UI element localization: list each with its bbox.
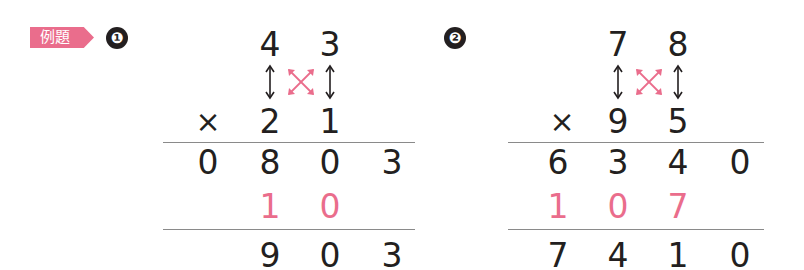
result-digit: 1: [658, 238, 698, 270]
partial-digit: 0: [310, 145, 350, 181]
multiply-operator: ×: [549, 104, 574, 140]
multiplier-digit: 5: [658, 104, 698, 140]
cross-arrow-icon: [286, 67, 316, 97]
result-digit: 3: [372, 238, 412, 270]
multiplicand-digit: 8: [658, 27, 698, 63]
multiplier-digit: 2: [250, 104, 290, 140]
vertical-arrow-icon: [611, 64, 625, 100]
cross-product-digit: 1: [250, 189, 290, 225]
result-digit: 7: [538, 238, 578, 270]
divider-line: [163, 229, 415, 230]
result-digit: 0: [720, 238, 760, 270]
multiplicand-digit: 3: [310, 27, 350, 63]
cross-product-digit: 1: [538, 189, 578, 225]
multiplier-digit: 1: [310, 104, 350, 140]
multiplier-digit: 9: [598, 104, 638, 140]
divider-line: [508, 229, 764, 230]
partial-digit: 8: [250, 145, 290, 181]
cross-product-digit: 0: [310, 189, 350, 225]
multiplicand-digit: 4: [250, 27, 290, 63]
vertical-arrow-icon: [263, 64, 277, 100]
multiplicand-digit: 7: [598, 27, 638, 63]
partial-digit: 3: [598, 145, 638, 181]
partial-digit: 0: [188, 145, 228, 181]
result-digit: 4: [598, 238, 638, 270]
result-digit: 0: [310, 238, 350, 270]
problem-number-2: ❷: [444, 27, 466, 49]
divider-line: [508, 142, 764, 143]
partial-digit: 4: [658, 145, 698, 181]
vertical-arrow-icon: [671, 64, 685, 100]
cross-product-digit: 7: [658, 189, 698, 225]
vertical-arrow-icon: [323, 64, 337, 100]
partial-digit: 3: [372, 145, 412, 181]
partial-digit: 6: [538, 145, 578, 181]
partial-digit: 0: [720, 145, 760, 181]
cross-arrow-icon: [634, 67, 664, 97]
result-digit: 9: [250, 238, 290, 270]
cross-product-digit: 0: [598, 189, 638, 225]
multiply-operator: ×: [195, 104, 220, 140]
example-badge: 例題: [30, 27, 94, 48]
problem-number-1: ❶: [106, 27, 128, 49]
